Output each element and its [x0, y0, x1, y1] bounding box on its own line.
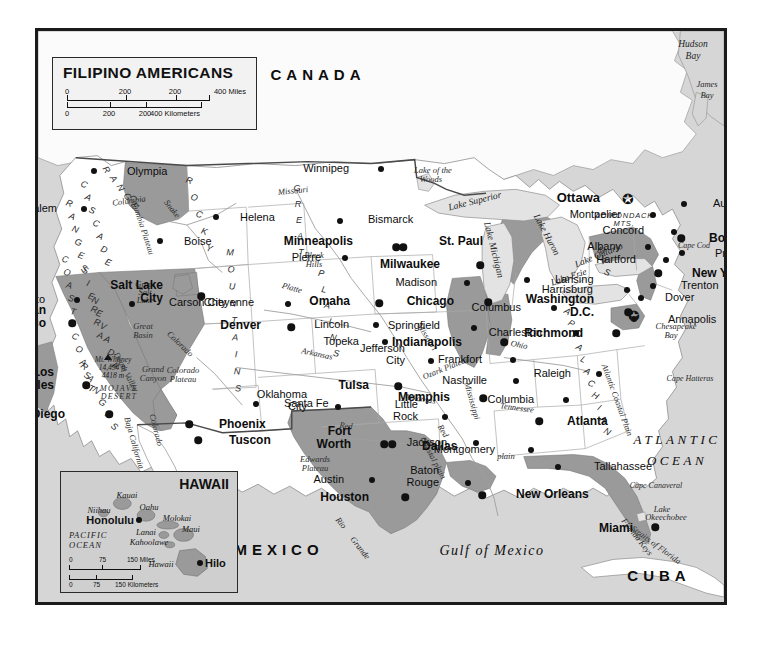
- city-dot-jefferson-city: [428, 358, 434, 364]
- city-dot-baton-rouge: [465, 480, 471, 486]
- city-dot-topeka: [382, 339, 388, 345]
- city-dot-concord: [671, 229, 677, 235]
- city-dot-olympia: [91, 168, 97, 174]
- city-dot-augusta: [681, 201, 687, 207]
- range-letter-mountains-0: M: [226, 247, 234, 259]
- range-letter-great-3: A: [297, 231, 303, 242]
- city-dot-montgomery: [528, 447, 534, 453]
- map-title: FILIPINO AMERICANS: [63, 64, 246, 82]
- city-dot-sacramento: [74, 297, 80, 303]
- hawaii-scale-bars: 0 75 150 Miles 0 75 150 Kilometers: [69, 556, 174, 590]
- hawaii-city-dot-honolulu: [136, 517, 142, 523]
- city-dot-milwaukee: [476, 261, 484, 269]
- hawaii-inset-title: HAWAII: [179, 476, 229, 492]
- city-dot-nashville: [513, 378, 519, 384]
- city-dot-pierre: [342, 255, 348, 261]
- map-title-legend: FILIPINO AMERICANS 0 200 200 400 Miles 0…: [52, 57, 257, 130]
- city-dot-boston: [677, 234, 685, 242]
- city-dot-cheyenne: [285, 301, 291, 307]
- city-dot-new-orleans: [478, 491, 486, 499]
- range-letter-great-1: R: [295, 199, 302, 210]
- city-dot-houston: [401, 493, 409, 501]
- city-dot-fort-worth: [380, 440, 388, 448]
- capital-star-icon-ottawa: ✪: [622, 192, 634, 206]
- scale-bar-miles: 0 200 200 400 Miles: [63, 87, 246, 100]
- city-dot-dallas: [388, 440, 396, 448]
- city-dot-san-fransisco: [68, 319, 76, 327]
- lake-okeechobee: [637, 512, 647, 522]
- scale-km-tick-0: 0: [65, 109, 69, 118]
- hawaii-scale-miles-0: 0: [69, 556, 73, 563]
- hawaii-island-label-kahoolawe: Kahoolawe: [130, 537, 169, 547]
- city-dot-carson-city: [129, 301, 135, 307]
- range-letter-great-0: G: [293, 183, 300, 194]
- scale-km-tick-1: 200: [103, 109, 116, 118]
- range-letter-plains-5: S: [332, 348, 340, 360]
- range-letter-mountains-6: I: [235, 349, 238, 360]
- range-letter-great-2: E: [296, 215, 302, 226]
- city-dot-raleigh: [596, 371, 602, 377]
- city-dot-harrisburg: [624, 287, 630, 293]
- city-dot-miami: [651, 523, 659, 531]
- city-dot-st-paul: [399, 243, 407, 251]
- city-dot-tulsa: [394, 382, 402, 390]
- scale-km-tick-3: 400 Kilometers: [150, 109, 200, 118]
- city-dot-little-rock: [442, 414, 448, 420]
- city-dot-chicago: [484, 298, 492, 306]
- city-dot-atlanta: [535, 417, 543, 425]
- city-dot-albany: [645, 244, 651, 250]
- city-dot-hartford: [663, 257, 669, 263]
- city-dot-boise: [157, 238, 163, 244]
- city-dot-montpelier: [650, 212, 656, 218]
- hawaii-scale-km-1: 75: [93, 581, 100, 588]
- hawaii-island-label-maui: Maui: [182, 524, 200, 534]
- city-dot-lansing: [524, 277, 530, 283]
- hawaii-island-label-oahu: Oahu: [140, 502, 159, 512]
- hawaii-city-label-hilo: Hilo: [205, 557, 226, 569]
- hawaii-island-label-lanai: Lanai: [136, 527, 156, 537]
- hawaii-scale-miles-1: 75: [99, 556, 106, 563]
- range-letter-plains-0: P: [317, 268, 325, 280]
- range-letter-mountains-3: N: [230, 298, 237, 309]
- range-letter-mountains-2: U: [229, 281, 236, 292]
- city-dot-winnipeg: [378, 166, 384, 172]
- city-dot-columbia: [563, 397, 569, 403]
- city-dot-richmond: [612, 329, 620, 337]
- city-dot-indianapolis: [500, 338, 508, 346]
- range-letter-mountains-5: A: [232, 332, 238, 343]
- city-dot-bismarck: [337, 218, 343, 224]
- city-dot-salem: [81, 206, 87, 212]
- city-dot-dover: [638, 295, 644, 301]
- city-dot-jackson: [473, 440, 479, 446]
- city-dot-oklahoma-city: [335, 404, 341, 410]
- city-dot-charleston: [573, 330, 579, 336]
- range-letter-plains-2: A: [323, 300, 331, 312]
- city-dot-tuscon: [194, 436, 202, 444]
- hawaii-scale-km-2: 150 Kilometers: [115, 581, 158, 588]
- city-dot-omaha: [375, 299, 383, 307]
- hawaii-scale-km-0: 0: [69, 581, 73, 588]
- hawaii-city-dot-hilo: [197, 560, 203, 566]
- city-dot-memphis: [479, 394, 487, 402]
- city-dot-new-york: [654, 269, 662, 277]
- hawaii-island-label-molokai: Molokai: [163, 513, 191, 523]
- range-letter-great-4: T: [298, 247, 304, 258]
- hawaii-city-label-honolulu: Honolulu: [86, 514, 134, 526]
- hawaii-inset-map: HAWAII PACIFIC OCEAN KauaiNiihauOahuMolo…: [60, 471, 238, 593]
- city-dot-austin: [369, 477, 375, 483]
- mountain-peak-icon: [104, 354, 112, 360]
- city-dot-san-diego: [105, 410, 113, 418]
- city-dot-lincoln: [373, 322, 379, 328]
- city-dot-madison: [464, 280, 470, 286]
- map-container: CANADAMEXICOCUBAATLANTICOCEANHudsonBayJa…: [35, 28, 727, 605]
- city-dot-providence: [679, 250, 685, 256]
- range-letter-mountains-1: O: [227, 264, 234, 275]
- city-dot-salt-lake-city: [197, 292, 205, 300]
- city-dot-columbus: [551, 305, 557, 311]
- hawaii-island-label-kauai: Kauai: [117, 490, 138, 500]
- city-dot-denver: [287, 323, 295, 331]
- range-letter-mountains-4: T: [231, 315, 237, 326]
- range-letter-mountains-8: S: [235, 383, 241, 394]
- city-dot-los-angeles: [82, 381, 90, 389]
- hawaii-ocean-label: PACIFIC OCEAN: [69, 530, 107, 550]
